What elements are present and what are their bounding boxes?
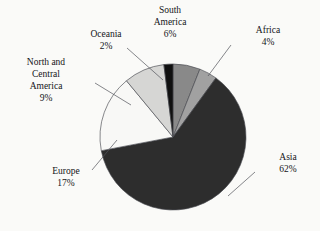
pie-label-oceania-value: 2% — [100, 41, 113, 51]
pie-label-asia-line1: Asia — [279, 152, 297, 162]
pie-label-asia-value: 62% — [279, 164, 297, 174]
pie-chart-figure: South America 6% Africa 4% Asia 62% Euro… — [0, 0, 320, 231]
pie-label-africa-line1: Africa — [256, 25, 281, 35]
pie-chart-canvas: South America 6% Africa 4% Asia 62% Euro… — [0, 0, 320, 231]
pie-label-europe-line1: Europe — [52, 166, 79, 176]
pie-label-north-central-america-value: 9% — [40, 93, 53, 103]
pie-label-south-america-value: 6% — [164, 29, 177, 39]
pie-label-oceania-line1: Oceania — [90, 29, 122, 39]
pie-label-south-america-line2: America — [154, 17, 187, 27]
pie-label-north-central-america-line2: Central — [32, 69, 60, 79]
pie-label-africa-value: 4% — [262, 37, 275, 47]
pie-label-north-central-america-line1: North and — [27, 57, 66, 67]
pie-label-europe-value: 17% — [57, 178, 75, 188]
pie-label-north-central-america-line3: America — [30, 81, 63, 91]
pie-slices — [100, 64, 246, 210]
pie-label-south-america-line1: South — [159, 5, 181, 15]
